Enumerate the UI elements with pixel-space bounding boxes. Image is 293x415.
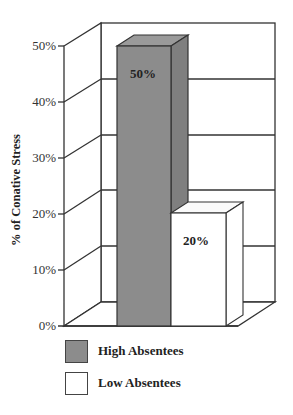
- bar-value-low: 20%: [183, 233, 209, 249]
- ytick-50: 50%: [6, 39, 56, 53]
- y-axis-label: % of Conative Stress: [9, 134, 24, 246]
- side-wall: [64, 23, 101, 326]
- ytick-10: 10%: [6, 263, 56, 277]
- bar-low-absentees: [171, 202, 243, 326]
- ytick-0: 0%: [6, 319, 56, 333]
- legend-label-low: Low Absentees: [98, 375, 181, 391]
- bar-value-high: 50%: [130, 66, 156, 82]
- legend-label-high: High Absentees: [98, 343, 184, 359]
- ytick-40: 40%: [6, 95, 56, 109]
- legend: High Absentees Low Absentees: [65, 338, 184, 402]
- legend-swatch-low: [65, 372, 88, 395]
- legend-swatch-high: [65, 340, 88, 363]
- legend-item-low: Low Absentees: [65, 370, 184, 396]
- legend-item-high: High Absentees: [65, 338, 184, 364]
